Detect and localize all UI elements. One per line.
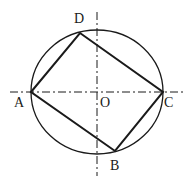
diagram-canvas: A D C B O (0, 0, 186, 183)
label-b: B (110, 158, 119, 173)
geometry-figure: A D C B O (0, 0, 186, 183)
label-d: D (74, 11, 84, 26)
label-o: O (100, 95, 110, 110)
label-c: C (164, 95, 173, 110)
label-a: A (14, 95, 25, 110)
